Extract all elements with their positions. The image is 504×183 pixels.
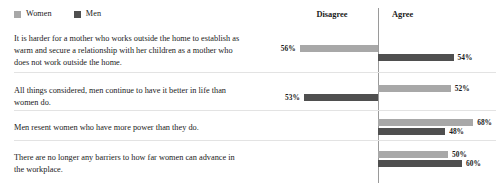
bar-men [304,94,378,101]
bar-value-men: 48% [449,128,464,135]
row-separator [14,140,496,141]
survey-diverging-bar-chart: Women Men Disagree Agree It is harder fo… [0,0,504,183]
axis-header-agree-label: Agree [392,11,448,19]
chart-legend: Women Men [14,10,101,18]
bar-value-women: 68% [477,119,492,126]
square-swatch-icon [74,11,81,18]
bar-value-women: 50% [452,151,467,158]
bar-value-men: 53% [278,94,300,101]
bar-women [300,45,378,52]
bar-men [378,128,445,135]
statement-text: Men resent women who have more power tha… [14,122,246,134]
legend-label-men: Men [86,10,101,18]
row-separator [14,110,496,111]
statement-text: All things considered, men continue to h… [14,85,246,109]
statement-text: There are no longer any barriers to how … [14,152,246,176]
row-separator [14,72,496,73]
bar-women [378,85,451,92]
bar-value-men: 60% [466,160,481,167]
bar-men [378,54,454,61]
bar-women [378,119,473,126]
axis-header-disagree-label: Disagree [300,11,364,19]
bar-men [378,160,462,167]
legend-label-women: Women [26,10,52,18]
bar-value-women: 52% [455,85,470,92]
axis-header-agree: Agree [392,11,448,25]
bar-value-men: 54% [458,54,473,61]
square-swatch-icon [14,11,21,18]
legend-item-men: Men [74,10,101,18]
legend-item-women: Women [14,10,52,18]
axis-header-disagree: Disagree [300,11,364,25]
statement-text: It is harder for a mother who works outs… [14,33,246,70]
bar-women [378,151,448,158]
bar-value-women: 56% [274,45,296,52]
